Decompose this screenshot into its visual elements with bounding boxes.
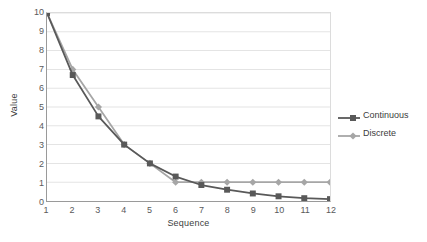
x-axis-tick-label: 12 (326, 206, 336, 215)
y-axis-tick-label: 2 (39, 160, 44, 169)
series-line (47, 13, 330, 182)
data-point-square-icon (47, 13, 50, 16)
x-axis-tick-label: 7 (199, 206, 204, 215)
y-axis-tick-label: 1 (39, 179, 44, 188)
plot-area (46, 12, 331, 202)
data-point-diamond-icon (224, 179, 231, 186)
legend-marker-square-icon (338, 110, 360, 122)
data-point-diamond-icon (275, 179, 282, 186)
x-axis-tick-label: 11 (300, 206, 309, 215)
data-point-square-icon (250, 191, 256, 197)
data-point-diamond-icon (349, 132, 356, 139)
y-axis-title-text: Value (9, 93, 19, 116)
y-axis-tick-label: 3 (39, 141, 44, 150)
y-axis-title: Value (6, 0, 22, 210)
plot-svg (47, 13, 330, 201)
x-axis-tick-label: 6 (173, 206, 178, 215)
data-point-square-icon (147, 160, 153, 166)
x-axis-title-text: Sequence (167, 218, 209, 228)
x-axis-tick-label: 5 (147, 206, 152, 215)
legend-item-discrete[interactable]: Discrete (338, 126, 424, 141)
data-point-square-icon (276, 193, 282, 199)
x-axis-tick-label: 9 (251, 206, 256, 215)
y-axis-tick-label: 9 (39, 27, 44, 36)
x-axis-tick-label: 2 (69, 206, 74, 215)
chart-legend: Continuous Discrete (338, 108, 424, 144)
data-point-square-icon (95, 113, 101, 119)
data-point-diamond-icon (249, 179, 256, 186)
legend-marker-diamond-icon (338, 128, 360, 140)
gridlines (47, 13, 330, 182)
x-axis-tick-label: 3 (95, 206, 100, 215)
y-axis-tick-label: 4 (39, 122, 44, 131)
x-axis-tick-label: 4 (121, 206, 126, 215)
x-axis-tick-label: 1 (43, 206, 48, 215)
data-point-square-icon (121, 142, 127, 148)
x-axis-tick-label: 8 (225, 206, 230, 215)
y-axis-tick-labels: 012345678910 (22, 12, 44, 202)
legend-label-continuous: Continuous (363, 111, 409, 120)
y-axis-tick-label: 10 (34, 8, 44, 17)
data-point-square-icon (198, 182, 204, 188)
line-chart: Value 012345678910 123456789101112 Seque… (0, 0, 427, 242)
data-point-square-icon (327, 196, 330, 201)
data-point-square-icon (350, 115, 356, 121)
data-point-diamond-icon (301, 179, 308, 186)
x-axis-title: Sequence (46, 218, 331, 228)
y-axis-tick-label: 7 (39, 65, 44, 74)
data-point-diamond-icon (326, 179, 330, 186)
data-point-square-icon (173, 174, 179, 180)
series-line (47, 13, 330, 199)
legend-item-continuous[interactable]: Continuous (338, 108, 424, 123)
data-point-square-icon (301, 195, 307, 201)
x-axis-tick-label: 10 (274, 206, 284, 215)
y-axis-tick-label: 5 (39, 103, 44, 112)
y-axis-tick-label: 6 (39, 84, 44, 93)
series-discrete (47, 13, 330, 186)
data-point-square-icon (70, 72, 76, 78)
y-axis-tick-label: 8 (39, 46, 44, 55)
data-point-square-icon (224, 187, 230, 193)
legend-label-discrete: Discrete (363, 129, 396, 138)
